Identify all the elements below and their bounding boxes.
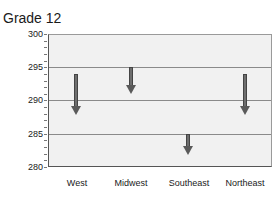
arrow-head-icon [71, 106, 81, 115]
arrow-west [70, 74, 82, 116]
y-tick-280: 280 [28, 162, 43, 172]
x-label-midwest: Midwest [114, 178, 147, 188]
gridline-290 [49, 100, 271, 101]
y-tick-295: 295 [28, 62, 43, 72]
arrow-midwest [125, 67, 137, 94]
arrow-southeast [182, 134, 194, 155]
x-label-southeast: Southeast [169, 178, 210, 188]
arrow-head-icon [240, 106, 250, 115]
gridline-285 [49, 134, 271, 135]
y-tick-300: 300 [28, 29, 43, 39]
arrow-head-icon [183, 146, 193, 155]
gridline-295 [49, 67, 271, 68]
y-tick-290: 290 [28, 95, 43, 105]
arrow-northeast [239, 74, 251, 116]
x-label-northeast: Northeast [225, 178, 264, 188]
arrow-head-icon [126, 85, 136, 94]
y-tick-285: 285 [28, 129, 43, 139]
chart-title: Grade 12 [3, 10, 61, 26]
x-label-west: West [67, 178, 87, 188]
